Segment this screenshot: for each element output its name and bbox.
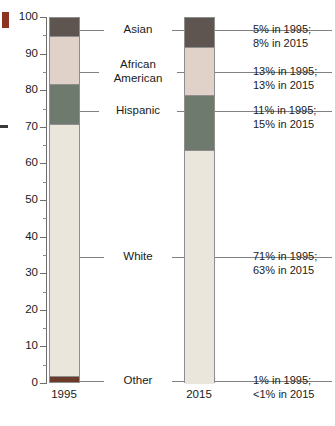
segment-divider	[185, 47, 214, 48]
y-tick-80	[40, 90, 47, 91]
segment-2015-african-american	[185, 47, 214, 95]
y-tick-label-80: 80	[4, 84, 38, 96]
category-label-african-american: African American	[99, 58, 177, 85]
y-tick-10	[40, 346, 47, 347]
segment-1995-hispanic	[50, 84, 79, 124]
y-tick-label-0: 0	[4, 377, 38, 389]
annotation-hispanic: 11% in 1995; 15% in 2015	[253, 104, 316, 131]
y-tick-label-60: 60	[4, 157, 38, 169]
category-label-asian: Asian	[104, 23, 172, 37]
y-tick-minor-45	[43, 218, 47, 219]
segment-divider	[185, 95, 214, 96]
segment-1995-asian	[50, 18, 79, 36]
y-tick-label-40: 40	[4, 231, 38, 243]
y-tick-40	[40, 237, 47, 238]
y-tick-label-50: 50	[4, 194, 38, 206]
y-tick-label-70: 70	[4, 121, 38, 133]
segment-divider	[50, 84, 79, 85]
bar-1995	[49, 17, 80, 383]
segment-divider	[50, 124, 79, 125]
y-tick-90	[40, 54, 47, 55]
segment-2015-asian	[185, 18, 214, 47]
annotation-white: 71% in 1995; 63% in 2015	[253, 250, 317, 277]
category-label-hispanic: Hispanic	[99, 104, 177, 118]
segment-divider	[50, 376, 79, 377]
category-label-other: Other	[104, 374, 172, 388]
y-tick-label-90: 90	[4, 48, 38, 60]
x-axis-label-2015: 2015	[164, 388, 234, 401]
y-tick-70	[40, 127, 47, 128]
segment-2015-hispanic	[185, 95, 214, 150]
y-tick-label-100: 100	[4, 11, 38, 23]
segment-2015-white	[185, 150, 214, 384]
y-tick-label-30: 30	[4, 267, 38, 279]
y-tick-50	[40, 200, 47, 201]
y-tick-minor-85	[43, 72, 47, 73]
y-tick-minor-5	[43, 365, 47, 366]
y-tick-30	[40, 273, 47, 274]
y-tick-20	[40, 310, 47, 311]
segment-divider	[50, 36, 79, 37]
annotation-other: 1% in 1995; <1% in 2015	[253, 374, 314, 401]
y-tick-label-10: 10	[4, 340, 38, 352]
y-tick-100	[40, 17, 47, 18]
y-tick-minor-25	[43, 292, 47, 293]
y-tick-0	[40, 383, 47, 384]
y-tick-minor-65	[43, 145, 47, 146]
bar-2015	[184, 17, 215, 383]
segment-1995-african-american	[50, 36, 79, 84]
segment-1995-white	[50, 124, 79, 380]
segment-divider	[185, 150, 214, 151]
y-tick-minor-95	[43, 35, 47, 36]
plot-area: 100 90 80 70 60 50 40 30 20 10 0	[0, 0, 335, 426]
y-tick-label-20: 20	[4, 304, 38, 316]
annotation-african-american: 13% in 1995; 13% in 2015	[253, 65, 317, 92]
y-tick-minor-75	[43, 109, 47, 110]
y-tick-minor-35	[43, 255, 47, 256]
annotation-asian: 5% in 1995; 8% in 2015	[253, 23, 311, 50]
y-tick-minor-15	[43, 328, 47, 329]
category-label-white: White	[104, 250, 172, 264]
stacked-bar-chart: 100 90 80 70 60 50 40 30 20 10 0	[0, 0, 335, 426]
x-axis-label-1995: 1995	[29, 388, 99, 401]
y-tick-minor-55	[43, 182, 47, 183]
y-tick-60	[40, 163, 47, 164]
